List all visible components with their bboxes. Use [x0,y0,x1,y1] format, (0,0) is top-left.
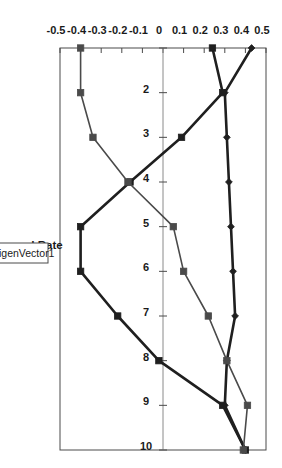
x-tick-label: 2 [143,83,149,95]
y-tick-label: -0.5 [47,24,66,36]
series-1 [221,45,255,454]
data-point-marker [170,223,176,229]
data-point-marker [156,357,162,363]
y-tick-label: -0.3 [88,24,107,36]
y-tick-label: 0.2 [193,24,208,36]
y-tick-label: 0.5 [254,24,269,36]
data-point-marker [244,402,250,408]
chart-legend: EigenVector1 [0,243,55,263]
y-tick-label: 0 [156,24,162,36]
chart-figure-rotator: 0.50.40.30.20.10-0.1-0.2-0.3-0.4-0.52345… [0,0,282,468]
data-point-marker [178,134,184,140]
chart-plot-area: 0.50.40.30.20.10-0.1-0.2-0.3-0.4-0.52345… [0,0,282,468]
data-point-marker [77,89,83,95]
x-tick-label: 4 [143,172,150,184]
data-point-marker [230,268,237,275]
legend-label: EigenVector1 [0,247,55,259]
x-tick-label: 10 [140,440,152,452]
data-point-marker [223,134,230,141]
y-tick-label: -0.1 [129,24,148,36]
data-point-marker [77,223,83,229]
data-point-marker [77,268,83,274]
x-tick-label: 6 [143,261,149,273]
x-tick-label: 3 [143,127,149,139]
data-point-marker [125,179,131,185]
data-point-marker [114,313,120,319]
data-point-marker [224,357,230,363]
x-tick-label: 8 [143,351,149,363]
x-tick-label: 7 [143,306,149,318]
y-tick-label: 0.3 [213,24,228,36]
data-point-marker [209,45,215,51]
y-tick-label: -0.2 [108,24,127,36]
data-point-marker [220,402,226,408]
data-point-marker [205,313,211,319]
eigenvector-line-chart: 0.50.40.30.20.10-0.1-0.2-0.3-0.4-0.52345… [0,0,282,468]
x-tick-label: 5 [143,217,149,229]
data-point-marker [228,223,235,230]
series-line [81,48,248,450]
y-tick-label: 0.1 [172,24,187,36]
y-tick-label: -0.4 [67,24,87,36]
data-point-marker [240,447,246,453]
x-tick-label: 9 [143,395,149,407]
series-line [225,48,252,450]
y-tick-label: 0.4 [234,24,250,36]
data-point-marker [90,134,96,140]
data-point-marker [220,89,226,95]
data-point-marker [226,179,233,186]
data-point-marker [180,268,186,274]
data-point-marker [77,45,83,51]
data-point-marker [232,313,239,320]
